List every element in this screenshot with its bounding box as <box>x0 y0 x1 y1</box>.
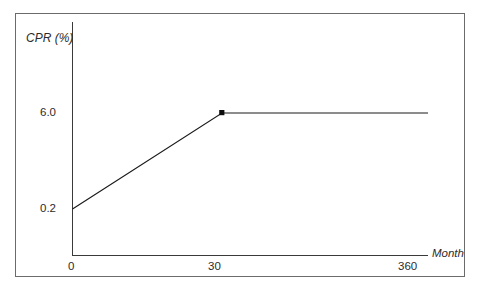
y-axis-title: CPR (%) <box>26 32 73 44</box>
vertex-marker-month-30 <box>219 110 224 115</box>
x-tick-label-30: 30 <box>208 261 221 273</box>
x-axis-title: Month <box>432 248 464 260</box>
chart-figure: CPR (%) Month 6.0 0.2 0 30 360 <box>0 0 477 291</box>
cpr-data-line <box>73 113 429 209</box>
y-tick-label-6: 6.0 <box>40 107 56 119</box>
x-tick-label-0: 0 <box>68 261 74 273</box>
y-tick-label-0-2: 0.2 <box>40 203 56 215</box>
x-tick-label-360: 360 <box>398 261 417 273</box>
